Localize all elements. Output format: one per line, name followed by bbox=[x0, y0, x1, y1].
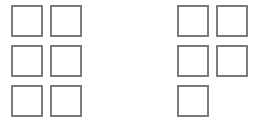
box-left-r3-c1[interactable] bbox=[11, 85, 43, 117]
box-left-r2-c2[interactable] bbox=[50, 45, 82, 77]
box-right-r2-c2[interactable] bbox=[216, 45, 248, 77]
box-right-r1-c2[interactable] bbox=[216, 5, 248, 37]
box-right-r3-c1[interactable] bbox=[177, 85, 209, 117]
box-left-r1-c2[interactable] bbox=[50, 5, 82, 37]
box-left-r3-c2[interactable] bbox=[50, 85, 82, 117]
box-right-r1-c1[interactable] bbox=[177, 5, 209, 37]
box-left-r2-c1[interactable] bbox=[11, 45, 43, 77]
box-right-r2-c1[interactable] bbox=[177, 45, 209, 77]
box-left-r1-c1[interactable] bbox=[11, 5, 43, 37]
